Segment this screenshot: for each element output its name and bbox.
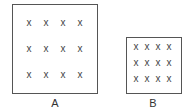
x-mark-b: x xyxy=(167,74,172,84)
x-mark-a: x xyxy=(44,18,49,28)
x-mark-b: x xyxy=(145,74,150,84)
label-a: A xyxy=(51,97,58,109)
x-mark-a: x xyxy=(61,18,66,28)
x-mark-a: x xyxy=(78,70,83,80)
x-mark-a: x xyxy=(61,44,66,54)
x-mark-a: x xyxy=(44,70,49,80)
x-mark-a: x xyxy=(27,18,32,28)
box-a xyxy=(12,4,98,94)
label-b: B xyxy=(149,97,156,109)
x-mark-a: x xyxy=(78,18,83,28)
x-mark-b: x xyxy=(145,58,150,68)
x-mark-b: x xyxy=(156,58,161,68)
x-mark-a: x xyxy=(78,44,83,54)
x-mark-b: x xyxy=(134,58,139,68)
x-mark-b: x xyxy=(156,74,161,84)
x-mark-b: x xyxy=(167,42,172,52)
x-mark-b: x xyxy=(156,42,161,52)
x-mark-b: x xyxy=(167,58,172,68)
x-mark-b: x xyxy=(145,42,150,52)
x-mark-b: x xyxy=(134,74,139,84)
x-mark-b: x xyxy=(134,42,139,52)
x-mark-a: x xyxy=(27,44,32,54)
x-mark-a: x xyxy=(61,70,66,80)
x-mark-a: x xyxy=(27,70,32,80)
x-mark-a: x xyxy=(44,44,49,54)
